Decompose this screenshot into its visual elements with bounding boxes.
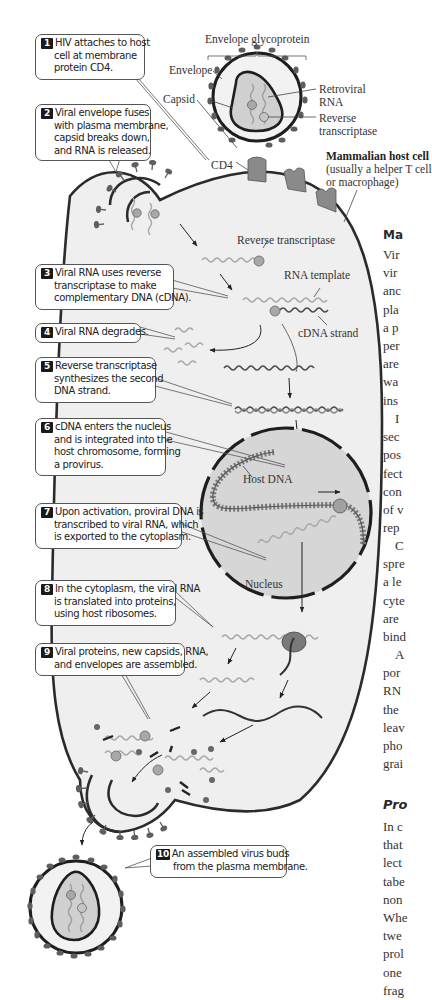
section-heading-2: Pro (383, 797, 407, 812)
released-virion (27, 854, 125, 958)
step-number-badge: 6 (41, 422, 53, 433)
step-number-badge: 2 (41, 108, 53, 119)
label-cdna-strand: cDNA strand (298, 327, 358, 340)
step-number-badge: 4 (41, 327, 53, 338)
label-host-dna: Host DNA (243, 473, 293, 486)
paragraph-4: A por RN the leav pho grai (383, 646, 405, 773)
step-6-callout: 6cDNA enters the nucleus and is integrat… (35, 418, 166, 476)
step-7-callout: 7Upon activation, proviral DNA is transc… (35, 503, 182, 549)
step-8-callout: 8In the cytoplasm, the viral RNA is tran… (35, 580, 176, 626)
step-4-callout: 4Viral RNA degrades. (35, 323, 141, 343)
step-9-callout: 9Viral proteins, new capsids, RNA, and e… (35, 643, 185, 676)
step-number-badge: 10 (156, 849, 170, 860)
step-5-callout: 5Reverse transcriptase synthesizes the s… (35, 357, 156, 403)
step-number-badge: 8 (41, 584, 53, 595)
label-rna-template: RNA template (284, 269, 350, 282)
label-nucleus: Nucleus (245, 578, 283, 591)
step-1-callout: 1HIV attaches to host cell at membrane p… (35, 34, 145, 80)
label-cd4: CD4 (211, 159, 233, 172)
paragraph-1: Vir vir anc pla a p per are wa ins (383, 246, 401, 410)
step-10-callout: 10An assembled virus buds from the plasm… (150, 845, 287, 878)
paragraph-2: I sec pos fect con of v rep (383, 410, 404, 537)
step-number-badge: 7 (41, 507, 53, 518)
label-reverse-transcriptase: Reverse transcriptase (237, 234, 335, 247)
label-envelope-glycoprotein: Envelope glycoprotein (205, 33, 309, 46)
paragraph-3: C spre a le cyte are bind (383, 537, 406, 646)
step-number-badge: 5 (41, 361, 53, 372)
step-number-badge: 3 (41, 268, 53, 279)
label-host-cell: Mammalian host cell (usually a helper T … (326, 150, 432, 189)
label-capsid: Capsid (163, 93, 195, 106)
label-retroviral-rna: Retroviral RNA (319, 83, 366, 109)
section-heading-1: Ma (383, 228, 403, 242)
step-number-badge: 1 (41, 38, 53, 49)
step-number-badge: 9 (41, 647, 53, 658)
label-reverse-transcriptase-virion: Reverse transcriptase (319, 112, 377, 138)
paragraph-5: In c that lect tabe non Whe twe prol one… (383, 818, 408, 1000)
hiv-virion (197, 44, 316, 148)
label-envelope: Envelope (169, 64, 212, 77)
step-3-callout: 3Viral RNA uses reverse transcriptase to… (35, 264, 174, 310)
step-2-callout: 2Viral envelope fuses with plasma membra… (35, 104, 151, 161)
